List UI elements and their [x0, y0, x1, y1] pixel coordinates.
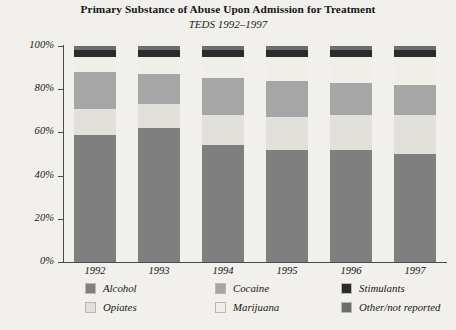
- legend-item-opiates: Opiates: [85, 301, 137, 313]
- bar-segment-opiates: [202, 115, 244, 145]
- y-axis-tick-label: 0%: [0, 255, 54, 266]
- bar-1992: [74, 46, 116, 262]
- y-axis-tick-label: 60%: [0, 125, 54, 136]
- bar-1995: [266, 46, 308, 262]
- page-title: Primary Substance of Abuse Upon Admissio…: [0, 3, 456, 15]
- bar-segment-cocaine: [138, 74, 180, 104]
- bar-segment-alcohol: [202, 145, 244, 262]
- legend-item-alcohol: Alcohol: [85, 282, 137, 294]
- x-axis-label-1992: 1992: [66, 265, 124, 276]
- legend-item-marijuana: Marijuana: [215, 301, 279, 313]
- bar-segment-marijuana: [202, 57, 244, 79]
- bar-segment-alcohol: [330, 150, 372, 262]
- bar-segment-alcohol: [266, 150, 308, 262]
- y-axis-tick-label: 100%: [0, 39, 54, 50]
- y-axis-tick-label: 80%: [0, 82, 54, 93]
- chart-figure: Primary Substance of Abuse Upon Admissio…: [0, 0, 456, 330]
- legend-swatch: [341, 302, 352, 313]
- legend-label: Opiates: [103, 301, 137, 313]
- bar-segment-marijuana: [330, 57, 372, 83]
- chart-legend: AlcoholCocaineStimulantsOpiatesMarijuana…: [63, 282, 443, 322]
- bar-1994: [202, 46, 244, 262]
- x-axis-label-1993: 1993: [130, 265, 188, 276]
- x-axis-label-1995: 1995: [258, 265, 316, 276]
- legend-label: Cocaine: [233, 282, 269, 294]
- bar-1997: [394, 46, 436, 262]
- bar-segment-marijuana: [266, 57, 308, 81]
- legend-item-other-not-reported: Other/not reported: [341, 301, 440, 313]
- bar-segment-alcohol: [74, 135, 116, 262]
- bar-segment-alcohol: [394, 154, 436, 262]
- x-axis-line: [63, 262, 447, 263]
- legend-swatch: [215, 283, 226, 294]
- y-axis-tick-label: 40%: [0, 169, 54, 180]
- bar-segment-cocaine: [74, 72, 116, 109]
- bar-segment-opiates: [266, 117, 308, 149]
- legend-item-stimulants: Stimulants: [341, 282, 405, 294]
- x-axis-label-1996: 1996: [322, 265, 380, 276]
- legend-label: Other/not reported: [359, 301, 440, 313]
- bar-segment-marijuana: [138, 57, 180, 74]
- legend-swatch: [341, 283, 352, 294]
- legend-swatch: [85, 283, 96, 294]
- y-axis-tick-label: 20%: [0, 212, 54, 223]
- bar-segment-cocaine: [202, 78, 244, 115]
- bar-segment-marijuana: [394, 57, 436, 85]
- legend-label: Stimulants: [359, 282, 405, 294]
- bar-segment-marijuana: [74, 57, 116, 72]
- legend-swatch: [215, 302, 226, 313]
- bar-1993: [138, 46, 180, 262]
- bar-1996: [330, 46, 372, 262]
- bar-segment-cocaine: [394, 85, 436, 115]
- bar-segment-opiates: [394, 115, 436, 154]
- bar-segment-opiates: [138, 104, 180, 128]
- bar-segment-opiates: [74, 109, 116, 135]
- legend-label: Marijuana: [233, 301, 279, 313]
- x-axis-label-1997: 1997: [386, 265, 444, 276]
- legend-swatch: [85, 302, 96, 313]
- chart-subtitle: TEDS 1992–1997: [0, 18, 456, 30]
- bar-segment-alcohol: [138, 128, 180, 262]
- legend-label: Alcohol: [103, 282, 137, 294]
- bar-segment-cocaine: [330, 83, 372, 115]
- bar-segment-opiates: [330, 115, 372, 150]
- x-axis-label-1994: 1994: [194, 265, 252, 276]
- x-axis-labels: 199219931994199519961997: [63, 265, 447, 281]
- bar-segment-cocaine: [266, 81, 308, 118]
- stacked-bars: [63, 46, 447, 262]
- legend-item-cocaine: Cocaine: [215, 282, 269, 294]
- y-axis-tick: [58, 262, 63, 263]
